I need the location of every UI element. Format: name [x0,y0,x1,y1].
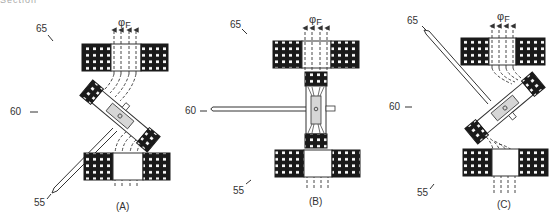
diagram-b [200,28,360,190]
label-60-a: 60 [10,107,21,117]
top-stator-a [82,44,168,71]
bottom-stator-b [275,150,360,177]
label-65-b: 65 [230,20,241,30]
caption-c: (C) [497,200,511,210]
flux-label-c: φF [497,11,510,25]
caption-a: (A) [116,202,129,212]
figure: Section [0,0,559,222]
caption-b: (B) [309,197,322,207]
flux-label-b: φF [309,14,322,28]
flux-label-a: φF [118,17,131,31]
top-stator-c [461,38,545,65]
rotor-a [80,77,163,152]
label-65-a: 65 [36,24,47,34]
label-60-b: 60 [185,106,196,116]
diagram-c [405,26,548,193]
rotor-handle-b [211,107,306,111]
rotor-b [305,72,335,148]
label-65-c: 65 [407,16,418,26]
top-stator-b [273,41,359,68]
label-60-c: 60 [389,102,400,112]
label-55-c: 55 [417,188,428,198]
diagram-a [30,30,170,199]
bottom-stator-a [84,153,170,180]
label-55-a: 55 [34,198,45,208]
label-55-b: 55 [233,186,244,196]
rotor-c [465,72,548,147]
bottom-stator-c [463,149,548,176]
